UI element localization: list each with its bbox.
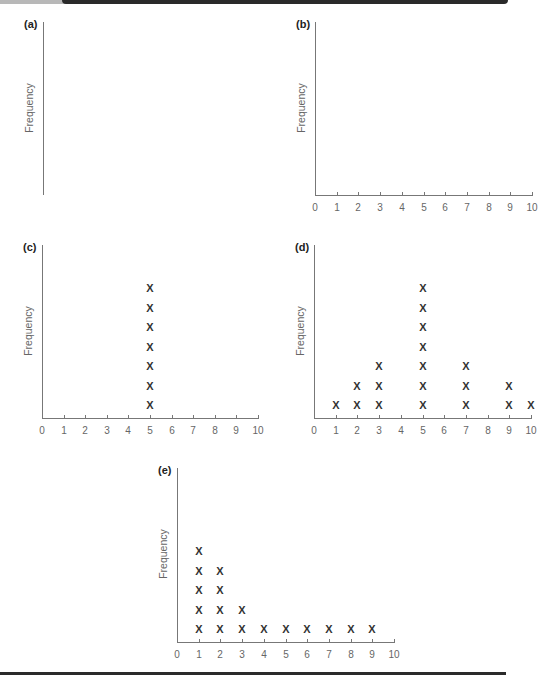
x-tick (307, 639, 308, 643)
x-tick-label: 3 (232, 649, 252, 660)
x-tick (488, 415, 489, 419)
x-tick-label: 4 (391, 425, 411, 436)
x-tick (337, 192, 338, 196)
x-tick (193, 415, 194, 419)
x-tick-label: 5 (414, 202, 434, 213)
x-tick-label: 6 (435, 202, 455, 213)
x-marker: X (417, 380, 429, 392)
x-tick (380, 192, 381, 196)
x-tick (150, 415, 151, 419)
y-axis (315, 22, 316, 195)
x-tick (177, 639, 178, 643)
x-tick-label: 9 (226, 425, 246, 436)
x-marker: X (366, 623, 378, 635)
x-marker: X (460, 380, 472, 392)
x-tick (401, 415, 402, 419)
x-tick-label: 7 (457, 202, 477, 213)
x-tick (358, 192, 359, 196)
x-tick-label: 4 (118, 425, 138, 436)
x-tick (315, 192, 316, 196)
x-tick-label: 0 (305, 202, 325, 213)
x-tick-label: 7 (183, 425, 203, 436)
x-marker: X (280, 623, 292, 635)
x-tick (215, 415, 216, 419)
x-tick-label: 0 (32, 425, 52, 436)
x-tick (489, 192, 490, 196)
x-marker: X (193, 623, 205, 635)
panel-label: (e) (158, 464, 171, 476)
x-tick (394, 639, 395, 643)
x-marker: X (417, 302, 429, 314)
y-axis (42, 245, 43, 418)
x-tick-label: 9 (362, 649, 382, 660)
y-axis-label: Frequency (157, 514, 169, 594)
x-tick-label: 8 (479, 202, 499, 213)
x-tick (444, 415, 445, 419)
y-axis (177, 468, 178, 642)
x-tick-label: 4 (254, 649, 274, 660)
x-tick-label: 6 (297, 649, 317, 660)
x-tick-label: 1 (326, 425, 346, 436)
x-tick-label: 0 (167, 649, 187, 660)
x-tick-label: 8 (205, 425, 225, 436)
x-tick-label: 2 (75, 425, 95, 436)
x-tick-label: 7 (319, 649, 339, 660)
x-tick (424, 192, 425, 196)
x-tick (258, 415, 259, 419)
x-tick (372, 639, 373, 643)
x-tick (85, 415, 86, 419)
x-marker: X (503, 399, 515, 411)
x-marker: X (373, 360, 385, 372)
x-tick (445, 192, 446, 196)
x-marker: X (301, 623, 313, 635)
x-marker: X (144, 380, 156, 392)
x-marker: X (193, 545, 205, 557)
x-tick (42, 415, 43, 419)
x-marker: X (323, 623, 335, 635)
x-tick-label: 1 (54, 425, 74, 436)
x-tick (236, 415, 237, 419)
y-axis (43, 22, 44, 195)
y-axis-label: Frequency (22, 291, 34, 371)
x-marker: X (144, 399, 156, 411)
x-tick-label: 9 (500, 202, 520, 213)
x-marker: X (351, 399, 363, 411)
top-bar-grey-segment (0, 0, 70, 4)
x-marker: X (345, 623, 357, 635)
x-tick (467, 192, 468, 196)
top-bar-dark-segment (62, 0, 508, 4)
x-marker: X (417, 341, 429, 353)
x-tick (336, 415, 337, 419)
x-tick (351, 639, 352, 643)
y-axis-label: Frequency (294, 291, 306, 371)
bottom-rule (0, 672, 506, 675)
x-tick-label: 10 (384, 649, 404, 660)
x-tick-label: 0 (304, 425, 324, 436)
x-tick (402, 192, 403, 196)
x-marker: X (193, 584, 205, 596)
x-marker: X (503, 380, 515, 392)
x-tick-label: 1 (327, 202, 347, 213)
x-tick (107, 415, 108, 419)
x-tick (172, 415, 173, 419)
x-marker: X (351, 380, 363, 392)
y-axis (314, 245, 315, 418)
x-tick (423, 415, 424, 419)
x-marker: X (214, 565, 226, 577)
x-marker: X (236, 623, 248, 635)
x-tick-label: 6 (434, 425, 454, 436)
panel-label: (b) (296, 18, 310, 30)
y-axis-label: Frequency (295, 68, 307, 148)
x-marker: X (144, 341, 156, 353)
x-tick-label: 2 (210, 649, 230, 660)
x-tick (509, 415, 510, 419)
x-tick-label: 1 (189, 649, 209, 660)
x-tick (64, 415, 65, 419)
x-marker: X (258, 623, 270, 635)
x-tick (286, 639, 287, 643)
x-marker: X (193, 565, 205, 577)
x-tick-label: 5 (413, 425, 433, 436)
x-marker: X (417, 321, 429, 333)
x-tick (264, 639, 265, 643)
x-marker: X (460, 399, 472, 411)
